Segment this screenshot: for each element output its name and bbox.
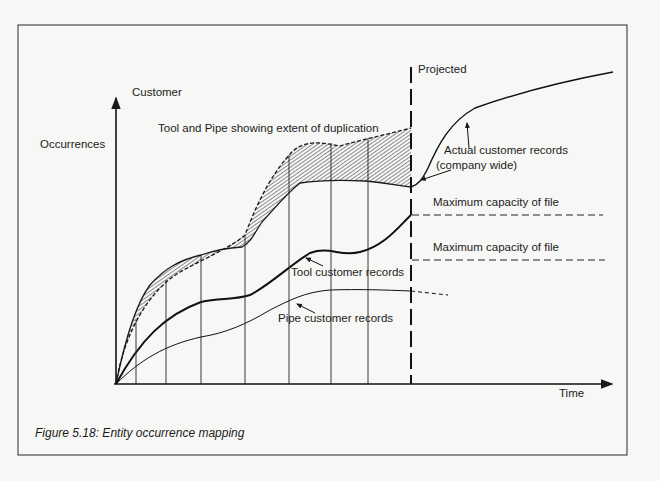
x-axis-label-time: Time — [559, 387, 584, 399]
entity-occurrence-figure: Customer Occurrences Tool and Pipe showi… — [0, 0, 660, 481]
tool-records-label: Tool customer records — [291, 266, 404, 278]
figure-caption: Figure 5.18: Entity occurrence mapping — [35, 426, 244, 440]
tool-pointer-arrow — [306, 258, 323, 266]
pipe-projected-dash — [411, 291, 448, 295]
projected-label: Projected — [418, 63, 467, 75]
duplication-label: Tool and Pipe showing extent of duplicat… — [158, 122, 379, 134]
tool-records-curve — [116, 215, 411, 384]
actual-records-label-2: (company wide) — [436, 159, 517, 171]
actual-records-label-1: Actual customer records — [444, 144, 568, 156]
y-axis-label-occurrences: Occurrences — [40, 138, 105, 150]
max-capacity-label-2: Maximum capacity of file — [433, 241, 559, 253]
diagram-canvas — [0, 0, 660, 481]
pipe-records-curve — [116, 290, 411, 384]
pipe-records-label: Pipe customer records — [278, 312, 393, 324]
duplication-hatched-area — [116, 128, 411, 384]
max-capacity-label-1: Maximum capacity of file — [433, 196, 559, 208]
y-axis-label-customer: Customer — [132, 86, 182, 98]
